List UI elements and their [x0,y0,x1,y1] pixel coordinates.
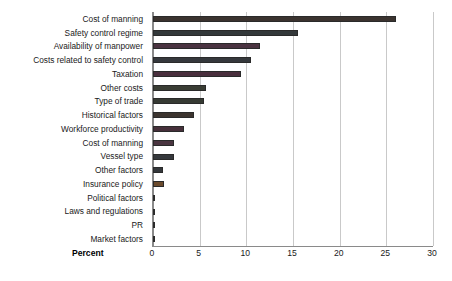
x-tick-label: 30 [427,248,437,258]
category-label: Other factors [0,163,148,177]
bar-row [153,191,433,205]
bar-series [153,12,433,246]
bar [153,98,204,104]
bar [153,126,184,132]
bar-row [153,136,433,150]
x-axis-title: Percent [72,248,104,258]
category-label: Vessel type [0,150,148,164]
bar-chart: Cost of manningSafety control regimeAvai… [0,0,452,281]
category-label: Type of trade [0,95,148,109]
bar [153,167,163,173]
bar [153,30,298,36]
bar-row [153,53,433,67]
bar-row [153,26,433,40]
x-tick-label: 20 [334,248,344,258]
bar-row [153,81,433,95]
x-tick-label: 25 [381,248,391,258]
bar [153,16,396,22]
bar-row [153,218,433,232]
gridline [433,12,434,246]
bar-row [153,108,433,122]
bar [153,57,251,63]
bar [153,236,155,242]
bar-row [153,67,433,81]
bar [153,181,164,187]
bar-row [153,40,433,54]
category-label: Taxation [0,67,148,81]
bar-row [153,205,433,219]
category-label: Cost of manning [0,136,148,150]
x-axis-ticks: 051015202530 [152,248,432,264]
bar [153,85,206,91]
bar [153,209,155,215]
category-label: Cost of manning [0,12,148,26]
category-axis-labels: Cost of manningSafety control regimeAvai… [0,12,148,246]
category-label: Safety control regime [0,26,148,40]
bar [153,222,155,228]
category-label: Insurance policy [0,177,148,191]
bar [153,43,260,49]
bar-row [153,12,433,26]
bar-row [153,122,433,136]
bar-row [153,163,433,177]
bar-row [153,95,433,109]
category-label: Availability of manpower [0,40,148,54]
x-tick-label: 0 [150,248,155,258]
category-label: Workforce productivity [0,122,148,136]
x-tick-label: 10 [241,248,251,258]
bar [153,140,174,146]
category-label: Costs related to safety control [0,53,148,67]
bar-row [153,150,433,164]
x-tick-label: 15 [287,248,297,258]
category-label: Market factors [0,232,148,246]
bar-row [153,232,433,246]
bar [153,195,155,201]
category-label: PR [0,218,148,232]
category-label: Other costs [0,81,148,95]
bar [153,154,174,160]
bar-row [153,177,433,191]
category-label: Historical factors [0,108,148,122]
plot-area [152,12,433,247]
bar [153,112,194,118]
x-tick-label: 5 [196,248,201,258]
bar [153,71,241,77]
category-label: Political factors [0,191,148,205]
category-label: Laws and regulations [0,205,148,219]
